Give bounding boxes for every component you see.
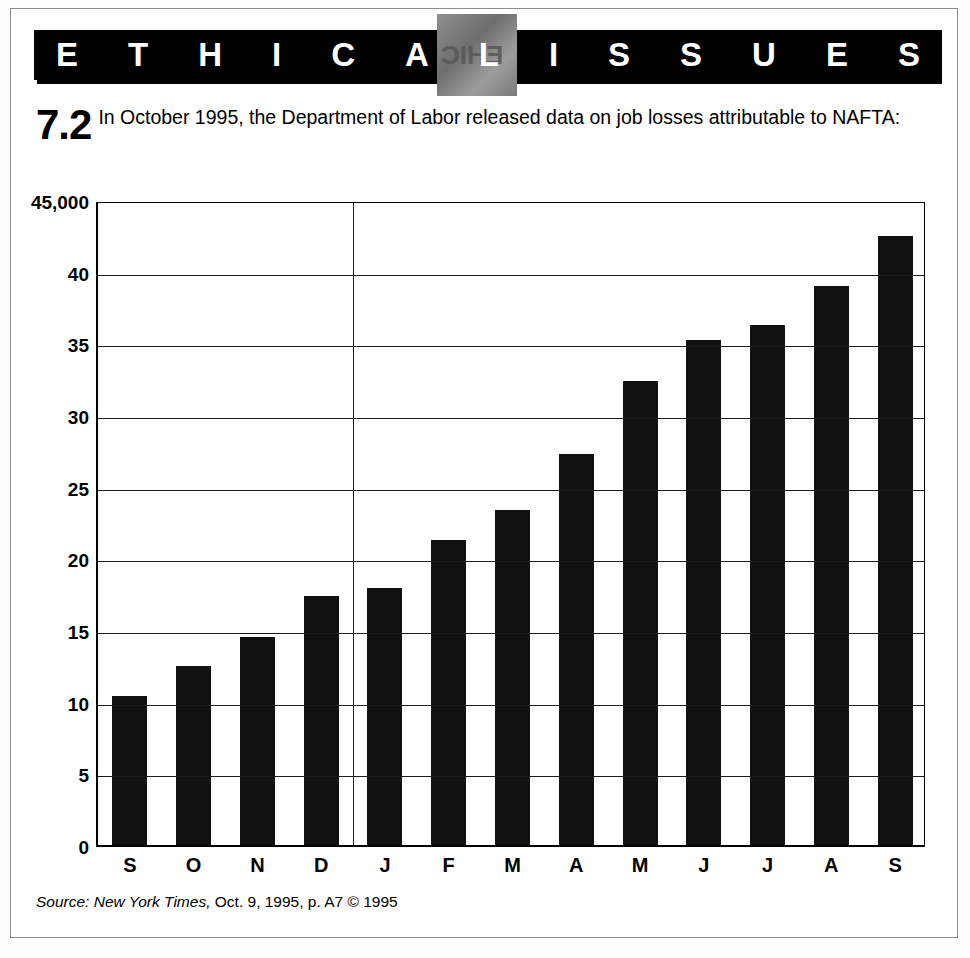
y-axis-label-20: 20 (68, 550, 89, 572)
x-axis-label-8: M (632, 854, 649, 877)
gridline-15 (98, 633, 924, 634)
y-axis-label-15: 15 (68, 622, 89, 644)
x-axis-label-1: O (186, 854, 202, 877)
year-divider-line (353, 203, 354, 845)
y-axis-label-25: 25 (68, 479, 89, 501)
bar-8 (623, 381, 658, 845)
x-axis-label-9: J (698, 854, 709, 877)
gridline-30 (98, 418, 924, 419)
x-axis-label-5: F (443, 854, 455, 877)
bar-10 (750, 325, 785, 845)
bar-4 (367, 588, 402, 845)
x-axis-label-4: J (379, 854, 390, 877)
x-axis-label-10: J (762, 854, 773, 877)
item-number: 7.2 (36, 106, 91, 145)
gridline-5 (98, 776, 924, 777)
y-axis-label-40: 40 (68, 264, 89, 286)
bar-11 (814, 286, 849, 845)
y-axis-label-5: 5 (78, 765, 89, 787)
source-details: Oct. 9, 1995, p. A7 © 1995 (215, 893, 398, 910)
item-text: In October 1995, the Department of Labor… (36, 104, 934, 130)
x-axis-label-7: A (569, 854, 583, 877)
x-axis-label-11: A (824, 854, 838, 877)
banner-watermark-icon: EHIC (437, 14, 517, 96)
gridline-10 (98, 705, 924, 706)
x-axis-label-3: D (314, 854, 328, 877)
bar-1 (176, 666, 211, 845)
banner-watermark-text: EHIC (441, 40, 503, 71)
gridline-20 (98, 561, 924, 562)
nafta-job-losses-chart: 45,0004035302520151050SONDJFMAMJJAS (34, 196, 934, 856)
y-axis-label-0: 0 (78, 837, 89, 859)
bar-5 (431, 540, 466, 845)
bar-7 (559, 454, 594, 845)
bar-12 (878, 236, 913, 845)
x-axis-label-12: S (888, 854, 901, 877)
bar-6 (495, 510, 530, 845)
page-root: EHIC ETHICALISSUES 7.2 In October 1995, … (0, 0, 970, 958)
chart-plot-area: 45,0004035302520151050SONDJFMAMJJAS (96, 202, 925, 847)
gridline-25 (98, 490, 924, 491)
x-axis-label-6: M (504, 854, 521, 877)
gridline-35 (98, 346, 924, 347)
source-publication: New York Times, (94, 893, 211, 910)
y-axis-label-35: 35 (68, 335, 89, 357)
bar-2 (240, 637, 275, 845)
gridline-40 (98, 275, 924, 276)
bar-0 (112, 696, 147, 845)
source-line: Source: New York Times, Oct. 9, 1995, p.… (36, 893, 398, 911)
y-axis-label-30: 30 (68, 407, 89, 429)
y-axis-label-45000: 45,000 (31, 192, 89, 214)
y-axis-label-10: 10 (68, 694, 89, 716)
bar-9 (686, 340, 721, 845)
intro-block: 7.2 In October 1995, the Department of L… (36, 104, 934, 145)
bar-series (98, 203, 924, 845)
x-axis-label-2: N (250, 854, 264, 877)
x-axis-label-0: S (123, 854, 136, 877)
source-label: Source: (36, 893, 89, 910)
